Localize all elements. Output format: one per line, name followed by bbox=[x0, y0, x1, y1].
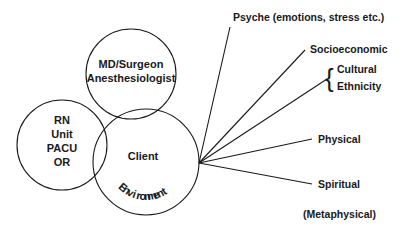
rn-label-line-2: Unit bbox=[51, 128, 73, 140]
label-spiritual: Spiritual bbox=[318, 178, 360, 190]
label-cultural: Cultural bbox=[337, 63, 377, 75]
connector-line-physical bbox=[199, 139, 312, 163]
rn-label-line-4: OR bbox=[54, 156, 71, 168]
venn-circle-group bbox=[17, 29, 199, 215]
md-label-line-1: MD/Surgeon bbox=[99, 58, 164, 70]
label-physical: Physical bbox=[318, 133, 361, 145]
rn-label-line-3: PACU bbox=[47, 142, 77, 154]
environment-arc-label: Environment bbox=[117, 180, 170, 202]
diagram-root: RN Unit PACU OR MD/Surgeon Anesthesiolog… bbox=[0, 0, 413, 233]
circle-text-group: RN Unit PACU OR MD/Surgeon Anesthesiolog… bbox=[47, 58, 176, 168]
dimension-label-group: Psyche (emotions, stress etc.)Socioecono… bbox=[233, 11, 388, 220]
label-psyche: Psyche (emotions, stress etc.) bbox=[233, 11, 384, 23]
rn-label-line-1: RN bbox=[54, 114, 70, 126]
curly-brace-icon: { bbox=[325, 63, 334, 93]
label-ethnicity: Ethnicity bbox=[337, 80, 381, 92]
connector-line-psyche bbox=[199, 27, 230, 163]
connector-line-socioeconomic bbox=[199, 50, 305, 163]
label-metaphysical: (Metaphysical) bbox=[303, 208, 376, 220]
diagram-canvas: RN Unit PACU OR MD/Surgeon Anesthesiolog… bbox=[0, 0, 413, 233]
connector-line-spiritual bbox=[199, 163, 312, 184]
md-label-line-2: Anesthesiologist bbox=[87, 72, 176, 84]
client-label: Client bbox=[128, 150, 159, 162]
label-socioeconomic: Socioeconomic bbox=[310, 43, 388, 55]
radiating-connector-lines bbox=[199, 27, 327, 184]
connector-line-cultural bbox=[199, 79, 327, 163]
